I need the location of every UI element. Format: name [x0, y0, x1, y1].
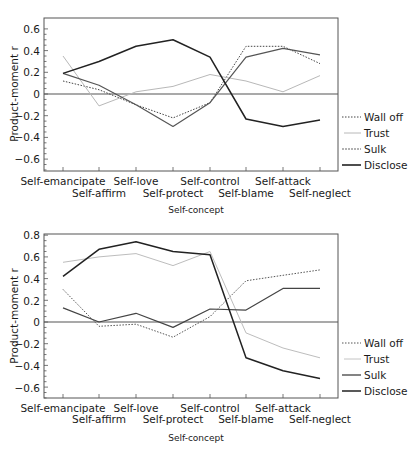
x-category-label: Self-neglect — [289, 187, 351, 199]
y-tick-label: 0.4 — [23, 45, 40, 57]
y-axis-ticks-1 — [44, 29, 48, 170]
series-lines-1 — [63, 40, 320, 127]
y-tick-label: 0 — [33, 88, 40, 100]
chart-1: 0.6 0.4 0.2 0 −0.2 −0.4 −0.6 Product-mom… — [8, 18, 408, 215]
y-tick-label: 0.2 — [23, 66, 40, 78]
chart-2: 0.8 0.6 0.4 0.2 0 −0.2 −0.4 −0.6 Product… — [8, 229, 408, 443]
legend-label-sulk: Sulk — [364, 369, 387, 381]
y-tick-label: 0.2 — [23, 295, 40, 307]
legend-label-trust: Trust — [363, 127, 389, 139]
x-category-label: Self-attack — [255, 175, 312, 187]
legend-label-wall-off: Wall off — [364, 337, 404, 349]
y-tick-label: 0.6 — [23, 23, 40, 35]
legend-label-trust: Trust — [363, 353, 389, 365]
x-axis-title-2: Self-concept — [168, 433, 224, 443]
series-lines-2 — [63, 242, 320, 379]
x-category-label: Self-blame — [218, 187, 274, 199]
series-line-wall-off — [63, 46, 320, 118]
series-line-wall-off — [63, 270, 320, 337]
x-axis-ticks-1 — [63, 167, 320, 171]
figure: 0.6 0.4 0.2 0 −0.2 −0.4 −0.6 Product-mom… — [0, 0, 413, 449]
y-tick-label: 0.8 — [23, 229, 40, 241]
series-line-disclose — [63, 40, 320, 127]
x-category-label: Self-love — [114, 175, 159, 187]
legend-label-disclose: Disclose — [364, 159, 408, 171]
y-tick-label: 0 — [33, 316, 40, 328]
series-line-trust — [63, 252, 320, 358]
legend-2: Wall off Trust Sulk Disclose — [342, 337, 408, 397]
x-category-label: Self-blame — [218, 413, 274, 425]
y-tick-label: 0.6 — [23, 251, 40, 263]
x-category-label: Self-protect — [143, 187, 204, 199]
series-line-disclose — [63, 242, 320, 379]
y-tick-label: −0.6 — [15, 153, 41, 165]
x-category-label: Self-control — [180, 175, 239, 187]
y-tick-label: −0.6 — [15, 382, 41, 394]
legend-label-wall-off: Wall off — [364, 111, 404, 123]
x-axis-ticks-2 — [63, 394, 320, 398]
y-axis-ticks-2 — [44, 235, 48, 398]
y-tick-label: 0.4 — [23, 273, 40, 285]
x-category-label: Self-neglect — [289, 413, 351, 425]
x-category-label: Self-emancipate — [20, 175, 105, 187]
x-axis-title-1: Self-concept — [168, 205, 224, 215]
legend-label-disclose: Disclose — [364, 385, 408, 397]
x-category-label: Self-protect — [143, 413, 204, 425]
legend-label-sulk: Sulk — [364, 143, 387, 155]
series-line-trust — [63, 56, 320, 106]
legend-1: Wall off Trust Sulk Disclose — [342, 111, 408, 171]
x-category-label: Self-affirm — [72, 187, 126, 199]
y-axis-title-1: Product-moment r — [8, 46, 20, 142]
x-category-label: Self-affirm — [72, 413, 126, 425]
y-axis-title-2: Product-moment r — [8, 268, 20, 364]
